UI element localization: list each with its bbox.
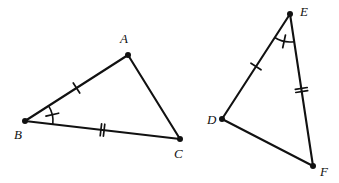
vertex-label-b: B — [14, 127, 22, 142]
vertex-dot-f — [310, 163, 316, 169]
side-AB-tick-marks — [73, 83, 79, 93]
side-EF-tick — [296, 91, 308, 93]
side-DE-tick — [251, 63, 261, 70]
vertex-dot-c — [177, 136, 183, 142]
side-DE-tick-marks — [251, 63, 261, 70]
vertex-label-a: A — [119, 31, 128, 46]
side-BC-tick — [103, 124, 104, 136]
side-DF — [222, 119, 313, 166]
vertex-label-f: F — [319, 164, 329, 179]
angle-E-marker — [275, 35, 294, 48]
geometry-canvas: ABCDEF — [0, 0, 339, 183]
side-BC — [25, 121, 180, 139]
vertex-label-e: E — [299, 4, 308, 19]
vertex-dot-d — [219, 116, 225, 122]
vertex-label-c: C — [174, 146, 183, 161]
side-BC-tick — [100, 124, 101, 136]
triangle-def: DEF — [206, 4, 329, 179]
geometry-figure: ABCDEF — [0, 0, 339, 183]
vertex-dot-e — [287, 11, 293, 17]
side-AB-tick — [73, 83, 79, 93]
side-EF — [290, 14, 313, 166]
vertex-dot-a — [125, 52, 131, 58]
side-EF-tick — [295, 88, 307, 90]
side-AC — [128, 55, 180, 139]
angle-B-marker — [46, 106, 59, 124]
vertex-label-d: D — [206, 112, 217, 127]
vertex-dot-b — [22, 118, 28, 124]
triangle-abc: ABC — [14, 31, 183, 161]
